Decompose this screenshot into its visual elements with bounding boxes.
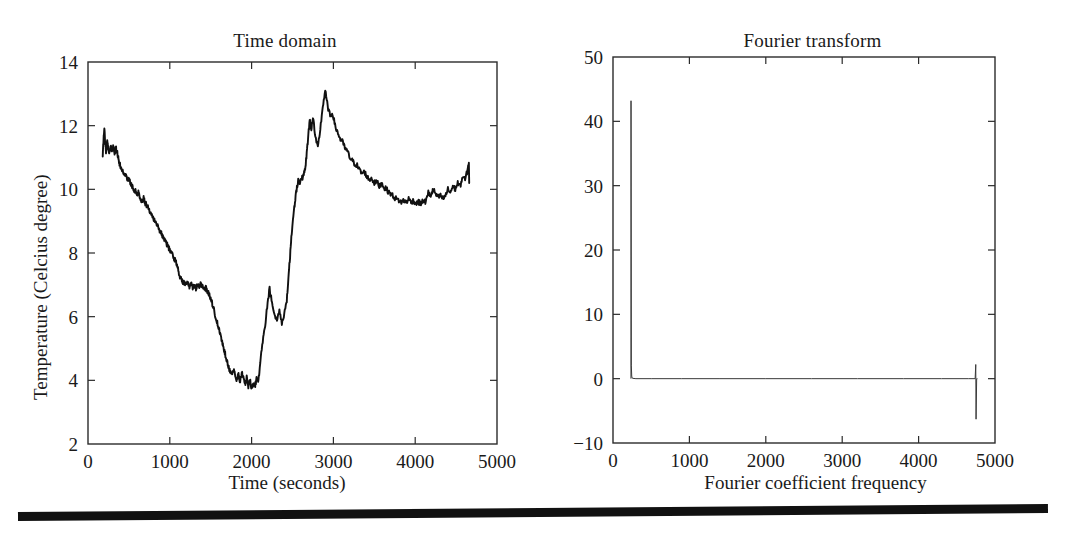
figure-bottom-rule — [18, 504, 1048, 521]
y-tick-label: 12 — [59, 116, 78, 137]
x-tick-label: 3000 — [823, 450, 861, 471]
x-tick-label: 2000 — [747, 450, 785, 471]
x-tick-label: 0 — [83, 451, 93, 472]
plot-area-time-domain: 0100020003000400050002468101214 — [0, 0, 530, 500]
x-tick-label: 3000 — [314, 451, 352, 472]
data-series-line — [631, 101, 977, 419]
plot-frame — [613, 57, 995, 443]
y-tick-label: 10 — [59, 179, 78, 200]
x-tick-label: 2000 — [233, 451, 271, 472]
y-tick-label: 14 — [59, 52, 79, 73]
panel-fourier-transform: Fourier transform Fourier coefficient am… — [530, 0, 1065, 500]
y-tick-label: 10 — [584, 304, 603, 325]
x-tick-label: 4000 — [900, 450, 938, 471]
panel-time-domain: Time domain Temperature (Celcius degree)… — [0, 0, 530, 500]
y-tick-label: 4 — [69, 370, 79, 391]
plot-frame — [88, 62, 497, 444]
y-tick-label: 50 — [584, 47, 603, 68]
x-tick-label: 0 — [608, 450, 618, 471]
data-series-line — [103, 91, 469, 389]
y-tick-label: 40 — [584, 111, 603, 132]
x-tick-label: 1000 — [151, 451, 189, 472]
y-tick-label: 30 — [584, 176, 603, 197]
x-tick-label: 5000 — [478, 451, 516, 472]
y-tick-label: 2 — [69, 434, 79, 455]
x-tick-label: 4000 — [396, 451, 434, 472]
y-tick-label: 8 — [69, 243, 79, 264]
y-tick-label: −10 — [573, 433, 603, 454]
plot-area-fourier-transform: 010002000300040005000−1001020304050 — [530, 0, 1065, 500]
y-tick-label: 20 — [584, 240, 603, 261]
figure-container: Time domain Temperature (Celcius degree)… — [0, 0, 1065, 542]
x-tick-label: 5000 — [976, 450, 1014, 471]
x-tick-label: 1000 — [670, 450, 708, 471]
y-tick-label: 0 — [594, 369, 604, 390]
y-tick-label: 6 — [69, 307, 79, 328]
